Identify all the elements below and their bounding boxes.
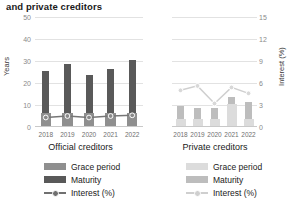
interest-marker [65,114,70,119]
y-axis-right-tick: 3 [259,102,285,109]
interest-line-series [35,17,143,127]
legend-item: Interest (%) [44,186,120,199]
legend-swatch-icon [186,163,208,170]
y-axis-right-tick: 15 [259,14,285,21]
legend-label: Interest (%) [213,188,257,198]
interest-marker [229,85,234,90]
interest-marker [212,101,217,106]
x-axis-tick: 2022 [237,131,261,138]
x-axis-tick: 2018 [34,131,58,138]
y-axis-left-tick: 10 [5,102,31,109]
interest-marker [195,84,200,89]
legend-line-marker-icon [44,189,66,196]
interest-marker [178,88,183,93]
figure: and private creditors 01020304050 036912… [0,0,292,205]
interest-marker [87,115,92,120]
x-axis-tick: 2021 [99,131,123,138]
legend-label: Grace period [71,162,120,172]
x-axis-tick: 2019 [55,131,79,138]
panel-label-private: Private creditors [160,142,270,152]
y-axis-right-tick: 12 [259,36,285,43]
y-axis-right-tick: 0 [259,124,285,131]
y-axis-left-tick: 50 [5,14,31,21]
legend-item: Maturity [44,173,120,186]
legend-private-creditors: Grace periodMaturityInterest (%) [186,160,262,199]
panel-label-official: Official creditors [18,142,143,152]
interest-marker [108,114,113,119]
legend-swatch-icon [44,163,66,170]
chart-title: and private creditors [6,1,102,12]
interest-line-series [172,17,257,127]
y-axis-left-tick: 40 [5,36,31,43]
y-axis-left-label: Years [2,47,11,87]
legend-item: Grace period [186,160,262,173]
x-axis-tick: 2022 [120,131,144,138]
legend-swatch-icon [44,176,66,183]
legend-item: Grace period [44,160,120,173]
interest-marker [246,91,251,96]
legend-line-marker-icon [186,189,208,196]
legend-swatch-icon [186,176,208,183]
y-axis-left-tick: 0 [5,124,31,131]
x-axis-tick: 2020 [77,131,101,138]
legend-item: Maturity [186,173,262,186]
legend-label: Maturity [213,175,243,185]
interest-marker [130,113,135,118]
legend-label: Interest (%) [71,188,115,198]
y-axis-right-label: Interest (%) [277,44,286,90]
plot-private-creditors: 20182019202020212022 [172,17,257,127]
interest-marker [43,115,48,120]
legend-item: Interest (%) [186,186,262,199]
legend-label: Grace period [213,162,262,172]
legend-official-creditors: Grace periodMaturityInterest (%) [44,160,120,199]
legend-label: Maturity [71,175,101,185]
plot-official-creditors: 20182019202020212022 [35,17,143,127]
